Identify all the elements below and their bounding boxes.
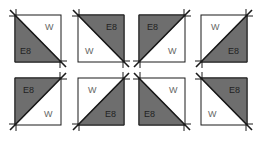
light-fabric-label: W	[169, 86, 178, 95]
hst-block: E8W	[139, 15, 185, 62]
hst-block: E8W	[139, 78, 185, 125]
hst-shape	[9, 9, 67, 68]
hst-block: E8W	[78, 15, 124, 62]
light-fabric-label: W	[45, 23, 54, 32]
light-fabric-label: W	[88, 86, 97, 95]
hst-shape	[195, 9, 253, 68]
dark-fabric-label: E8	[147, 23, 158, 32]
hst-shape	[133, 9, 191, 68]
hst-block: E8W	[78, 78, 124, 125]
hst-block: E8W	[15, 78, 61, 125]
dark-fabric-label: E8	[229, 86, 240, 95]
dark-fabric-label: E8	[105, 110, 116, 119]
hst-shape	[133, 72, 191, 131]
hst-block: E8W	[15, 15, 61, 62]
light-fabric-label: W	[85, 47, 94, 56]
dark-fabric-label: E8	[106, 23, 117, 32]
hst-shape	[9, 72, 67, 131]
dark-fabric-label: E8	[23, 86, 34, 95]
light-fabric-label: W	[208, 110, 217, 119]
dark-fabric-label: E8	[20, 47, 31, 56]
dark-fabric-label: E8	[144, 110, 155, 119]
hst-shape	[72, 9, 130, 68]
hst-block: E8W	[201, 78, 247, 125]
dark-fabric-label: E8	[228, 47, 239, 56]
light-fabric-label: W	[44, 110, 53, 119]
light-fabric-label: W	[168, 47, 177, 56]
hst-block: E8W	[201, 15, 247, 62]
light-fabric-label: W	[211, 23, 220, 32]
hst-shape	[195, 72, 253, 131]
hst-shape	[72, 72, 130, 131]
